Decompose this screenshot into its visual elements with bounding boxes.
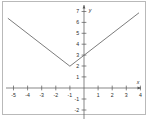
y-axis-label: y [88,7,92,13]
x-tick-label: -3 [39,92,44,98]
plot-figure: -5 -4 -3 -2 -1 1 2 3 4 7 6 5 4 [0,0,149,133]
x-tick-label: 1 [97,92,100,98]
y-tick-label: 3 [76,52,79,58]
x-tick-label: -5 [11,92,16,98]
x-tick-label: -2 [53,92,58,98]
y-tick-label: 1 [76,74,79,80]
y-tick-label: 4 [76,41,79,47]
y-tick-label: 5 [76,30,79,36]
series-line-absolute-value [8,13,139,66]
y-tick-label: 7 [76,8,79,14]
x-tick-label: -4 [25,92,30,98]
y-tick-label: -1 [75,96,80,102]
y-tick-label: 6 [76,19,79,25]
x-tick-label: -1 [68,92,73,98]
x-tick-label: 2 [111,92,114,98]
y-axis-arrowhead [83,5,86,9]
y-tick-label: -2 [75,107,80,113]
x-axis-label: x [136,79,140,85]
plot-canvas: -5 -4 -3 -2 -1 1 2 3 4 7 6 5 4 [0,0,149,133]
y-tick-label: 2 [76,63,79,69]
x-tick-label: 3 [125,92,128,98]
x-tick-label: 4 [139,92,142,98]
